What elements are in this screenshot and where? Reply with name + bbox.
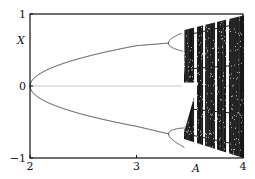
data-point: [209, 146, 210, 147]
data-point: [211, 101, 212, 102]
data-point: [204, 110, 205, 111]
data-point: [207, 50, 208, 51]
data-point: [220, 137, 221, 138]
data-point: [188, 70, 189, 71]
data-point: [191, 67, 192, 68]
data-point: [218, 60, 219, 61]
data-point: [188, 122, 189, 123]
data-point: [227, 26, 228, 27]
data-point: [237, 77, 238, 78]
data-point: [201, 35, 202, 36]
data-point: [198, 120, 199, 121]
data-point: [214, 46, 215, 47]
data-point: [217, 87, 218, 88]
data-point: [201, 58, 202, 59]
x-tick-label: 3: [133, 160, 140, 173]
data-point: [193, 126, 194, 127]
data-point: [215, 66, 216, 67]
data-point: [191, 47, 192, 48]
data-point: [222, 47, 223, 48]
data-point: [231, 108, 232, 109]
data-point: [216, 66, 217, 67]
data-point: [231, 66, 232, 67]
chaos-column: [239, 16, 240, 156]
data-point: [199, 101, 200, 102]
data-point: [217, 68, 218, 69]
data-point: [211, 93, 212, 94]
data-point: [241, 117, 242, 118]
chaos-column: [209, 24, 210, 147]
data-point: [200, 96, 201, 97]
chaos-column: [230, 19, 231, 154]
data-point: [220, 120, 221, 121]
data-point: [186, 81, 187, 82]
data-point: [192, 60, 193, 61]
data-point: [238, 112, 239, 113]
data-point: [197, 107, 198, 108]
data-point: [216, 28, 217, 29]
data-point: [206, 102, 207, 103]
data-point: [187, 43, 188, 44]
data-point: [197, 109, 198, 110]
chaos-column: [214, 23, 215, 149]
data-point: [201, 55, 202, 56]
data-point: [213, 104, 214, 105]
data-point: [241, 34, 242, 35]
data-point: [228, 112, 229, 113]
chaos-column: [223, 20, 224, 151]
chaos-column: [225, 20, 226, 152]
data-point: [193, 80, 194, 81]
data-point: [205, 70, 206, 71]
data-point: [189, 134, 190, 135]
data-point: [196, 68, 197, 69]
data-point: [229, 29, 230, 30]
data-point: [223, 109, 224, 110]
chaos-column: [217, 22, 218, 150]
data-point: [237, 112, 238, 113]
data-point: [225, 100, 226, 101]
data-point: [209, 28, 210, 29]
data-point: [195, 135, 196, 136]
data-point: [234, 149, 235, 150]
data-point: [186, 131, 187, 132]
data-point: [232, 104, 233, 105]
data-point: [202, 114, 203, 115]
data-point: [223, 122, 224, 123]
data-point: [233, 151, 234, 152]
data-point: [213, 48, 214, 49]
data-point: [209, 133, 210, 134]
data-point: [192, 66, 193, 67]
data-point: [196, 136, 197, 137]
data-point: [235, 144, 236, 145]
data-point: [232, 86, 233, 87]
data-point: [221, 39, 222, 40]
data-point: [237, 49, 238, 50]
data-point: [225, 42, 226, 43]
data-point: [219, 121, 220, 122]
data-point: [206, 27, 207, 28]
data-point: [225, 56, 226, 57]
data-point: [241, 122, 242, 123]
data-point: [221, 100, 222, 101]
data-point: [241, 63, 242, 64]
data-point: [218, 52, 219, 53]
chaos-column: [219, 21, 220, 150]
data-point: [188, 46, 189, 47]
data-point: [233, 85, 234, 86]
data-point: [235, 128, 236, 129]
chaos-column: [231, 18, 232, 154]
data-point: [189, 77, 190, 78]
data-point: [233, 149, 234, 150]
data-point: [199, 74, 200, 75]
data-point: [201, 134, 202, 135]
data-point: [196, 32, 197, 33]
data-point: [236, 138, 237, 139]
data-point: [207, 107, 208, 108]
data-point: [216, 140, 217, 141]
data-point: [212, 62, 213, 63]
data-point: [211, 67, 212, 68]
data-point: [198, 72, 199, 73]
data-point: [228, 142, 229, 143]
data-point: [203, 67, 204, 68]
data-point: [234, 139, 235, 140]
